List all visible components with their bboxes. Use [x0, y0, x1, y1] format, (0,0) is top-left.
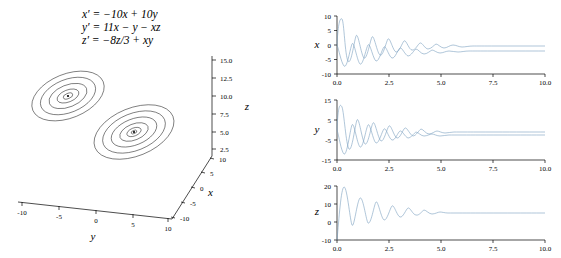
- phase-z-axis-label: z: [244, 100, 250, 112]
- phase-z-tick-4: 12.5: [220, 75, 233, 83]
- chart-y-xtick-2: 5.0: [437, 165, 446, 173]
- phase-y-tick-2: 0: [94, 217, 98, 225]
- phase-y-tick-4: 10: [165, 225, 173, 233]
- chart-x-xtick-2: 5.0: [437, 79, 446, 87]
- phase-x-axis-label: x: [207, 186, 213, 198]
- chart-y-vs-t: -15 -5 5 15 0.0 2.5 5.0 7.5 10.0 y: [314, 97, 552, 174]
- chart-x-ytick-3: 5: [328, 27, 332, 35]
- phase-x-tick-4: 10: [219, 156, 227, 164]
- phase-z-tick-2: 7.5: [220, 111, 229, 119]
- phase-z-tick-0: 2.5: [220, 146, 229, 154]
- chart-y-xtick-0: 0.0: [333, 165, 342, 173]
- chart-z-xtick-3: 7.5: [489, 245, 498, 253]
- phase-y-tick-1: -5: [56, 213, 62, 221]
- equation-z: z′ = −8z/3 + xy: [82, 34, 161, 47]
- chart-x-ytick-1: -5: [325, 56, 331, 64]
- chart-z-xtick-4: 10.0: [539, 245, 552, 253]
- chart-z-vs-t: -10 0 10 20 0.0 2.5 5.0 7.5 10.0 z t: [314, 183, 552, 255]
- phase-y-tick-3: 5: [131, 221, 135, 229]
- chart-z-xtick-1: 2.5: [385, 245, 394, 253]
- chart-x-xtick-3: 7.5: [489, 79, 498, 87]
- chart-y-xtick-4: 10.0: [539, 165, 552, 173]
- chart-y-ytick-0: -15: [322, 157, 332, 165]
- phase-z-tick-5: 15.0: [220, 57, 233, 65]
- phase-axis-y: -10 -5 0 5 10 y: [17, 202, 172, 242]
- chart-z-series-1: [337, 187, 545, 240]
- chart-x-xtick-1: 2.5: [385, 79, 394, 87]
- chart-z-xtick-0: 0.0: [333, 245, 342, 253]
- phase-z-tick-1: 5.0: [220, 129, 229, 137]
- chart-y-ytick-2: 5: [328, 117, 332, 125]
- equation-y: y′ = 11x − y − xz: [82, 21, 161, 34]
- phase-y-axis-label: y: [90, 230, 96, 242]
- chart-x-ytick-2: 0: [328, 42, 332, 50]
- chart-y-ytick-1: -5: [325, 137, 331, 145]
- attractor-lobe-lower: [86, 94, 182, 170]
- phase-x-tick-3: 5: [210, 170, 214, 178]
- chart-x-xtick-4: 10.0: [539, 79, 552, 87]
- attractor-lobe-upper: [25, 61, 112, 130]
- chart-z-ytick-3: 20: [324, 183, 332, 191]
- time-series-panels: -10 -5 0 5 10 0.0 2.5 5.0 7.5 10.0 x -15…: [295, 4, 561, 254]
- phase-x-tick-2: 0: [200, 185, 204, 193]
- chart-z-ytick-0: -10: [322, 237, 332, 245]
- chart-y-xtick-3: 7.5: [489, 165, 498, 173]
- chart-x-ylabel: x: [314, 38, 320, 50]
- chart-z-ytick-2: 10: [324, 201, 332, 209]
- chart-x-ytick-4: 10: [324, 13, 332, 21]
- chart-x-series-1: [337, 19, 545, 62]
- chart-x-ytick-0: -10: [322, 71, 332, 79]
- chart-z-ylabel: z: [314, 205, 320, 217]
- chart-x-vs-t: -10 -5 0 5 10 0.0 2.5 5.0 7.5 10.0 x: [314, 13, 552, 88]
- phase-x-tick-1: -5: [190, 200, 196, 208]
- system-equations: x′ = −10x + 10y y′ = 11x − y − xz z′ = −…: [82, 8, 161, 47]
- phase-x-tick-0: -10: [180, 215, 190, 223]
- phase-axis-z: 2.5 5.0 7.5 10.0 12.5 15.0 z: [212, 56, 250, 156]
- phase-axis-x: -10 -5 0 5 10 x: [171, 156, 227, 223]
- equation-x: x′ = −10x + 10y: [82, 8, 161, 21]
- chart-z-ytick-1: 0: [328, 219, 332, 227]
- chart-y-series-1: [337, 105, 545, 149]
- chart-y-ytick-3: 15: [324, 97, 332, 105]
- chart-y-ylabel: y: [314, 123, 320, 135]
- chart-x-xtick-0: 0.0: [333, 79, 342, 87]
- chart-y-xtick-1: 2.5: [385, 165, 394, 173]
- phase-portrait-3d: -10 -5 0 5 10 y -10 -5 0 5 10 x 2.5 5.0 …: [0, 48, 300, 256]
- phase-z-tick-3: 10.0: [220, 93, 233, 101]
- phase-y-tick-0: -10: [17, 209, 27, 217]
